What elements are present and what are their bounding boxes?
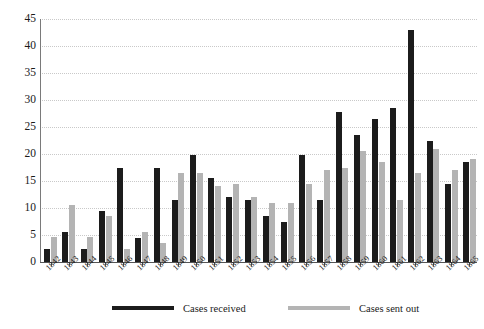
bar-group: [427, 19, 440, 262]
bar-cases-sent-out: [452, 170, 458, 262]
y-axis-tick-label: 40: [2, 40, 36, 52]
bar-cases-sent-out: [342, 168, 348, 263]
bar-cases-received: [463, 162, 469, 262]
legend-swatch-sent-icon: [288, 306, 350, 310]
y-axis-tick-label: 0: [2, 256, 36, 268]
bar-cases-sent-out: [197, 173, 203, 262]
bar-cases-received: [62, 232, 68, 262]
y-axis-ticks: 051015202530354045: [0, 19, 36, 262]
legend-swatch-received-icon: [112, 306, 174, 310]
bar-cases-received: [445, 184, 451, 262]
bar-cases-received: [281, 222, 287, 263]
bar-group: [226, 19, 239, 262]
bar-group: [390, 19, 403, 262]
bar-cases-sent-out: [397, 200, 403, 262]
bar-cases-received: [317, 200, 323, 262]
bar-cases-sent-out: [360, 151, 366, 262]
bar-cases-sent-out: [233, 184, 239, 262]
bar-group: [372, 19, 385, 262]
bar-group: [172, 19, 185, 262]
bar-cases-received: [427, 141, 433, 263]
x-axis-ticks: 1842184318441845184618471848184918501851…: [40, 263, 477, 299]
bar-group: [154, 19, 167, 262]
bar-cases-received: [226, 197, 232, 262]
legend-entry-cases-sent-out: Cases sent out: [288, 300, 419, 316]
y-axis-tick-label: 5: [2, 229, 36, 241]
bar-cases-received: [190, 155, 196, 262]
plot-area: [40, 19, 477, 262]
bars-layer: [40, 19, 477, 262]
legend-label-cases-sent-out: Cases sent out: [359, 303, 419, 314]
bar-group: [299, 19, 312, 262]
bar-cases-sent-out: [306, 184, 312, 262]
bar-group: [463, 19, 476, 262]
bar-group: [263, 19, 276, 262]
y-axis-tick-label: 25: [2, 121, 36, 133]
y-axis-tick-label: 30: [2, 94, 36, 106]
y-axis-tick-label: 20: [2, 148, 36, 160]
bar-cases-received: [354, 135, 360, 262]
bar-cases-received: [208, 178, 214, 262]
bar-group: [317, 19, 330, 262]
bar-group: [408, 19, 421, 262]
bar-cases-received: [135, 238, 141, 262]
bar-cases-received: [299, 155, 305, 262]
bar-group: [336, 19, 349, 262]
bar-group: [281, 19, 294, 262]
bar-cases-sent-out: [288, 203, 294, 262]
bar-group: [81, 19, 94, 262]
bar-chart-figure: 051015202530354045 184218431844184518461…: [0, 0, 484, 329]
bar-group: [117, 19, 130, 262]
bar-group: [135, 19, 148, 262]
bar-cases-sent-out: [178, 173, 184, 262]
bar-group: [62, 19, 75, 262]
bar-cases-received: [117, 168, 123, 263]
bar-cases-sent-out: [433, 149, 439, 262]
bar-cases-sent-out: [251, 197, 257, 262]
bar-group: [99, 19, 112, 262]
bar-cases-received: [172, 200, 178, 262]
y-axis-tick-label: 10: [2, 202, 36, 214]
bar-cases-sent-out: [269, 203, 275, 262]
legend-label-cases-received: Cases received: [183, 303, 246, 314]
bar-cases-received: [408, 30, 414, 262]
bar-group: [44, 19, 57, 262]
bar-cases-sent-out: [215, 186, 221, 262]
bar-cases-received: [245, 200, 251, 262]
legend-entry-cases-received: Cases received: [112, 300, 246, 316]
bar-group: [354, 19, 367, 262]
bar-cases-sent-out: [470, 159, 476, 262]
bar-cases-sent-out: [415, 173, 421, 262]
bar-cases-received: [390, 108, 396, 262]
bar-cases-received: [263, 216, 269, 262]
bar-cases-received: [336, 112, 342, 262]
bar-cases-received: [154, 168, 160, 263]
chart-legend: Cases received Cases sent out: [0, 300, 484, 316]
bar-group: [190, 19, 203, 262]
bar-group: [245, 19, 258, 262]
bar-group: [445, 19, 458, 262]
bar-cases-received: [99, 211, 105, 262]
y-axis-tick-label: 45: [2, 13, 36, 25]
y-axis-tick-label: 15: [2, 175, 36, 187]
bar-cases-sent-out: [324, 170, 330, 262]
bar-group: [208, 19, 221, 262]
bar-cases-received: [372, 119, 378, 262]
bar-cases-sent-out: [379, 162, 385, 262]
y-axis-tick-label: 35: [2, 67, 36, 79]
